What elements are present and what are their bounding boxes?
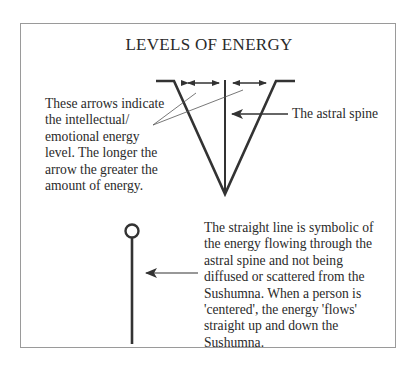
arrows-note: These arrows indicate the intellectual/ …	[45, 96, 164, 194]
straight-line-note: The straight line is symbolic of the ene…	[204, 220, 374, 351]
spine-label: The astral spine	[292, 106, 378, 122]
pointer-line-2	[153, 90, 243, 125]
crown-circle	[126, 225, 139, 238]
